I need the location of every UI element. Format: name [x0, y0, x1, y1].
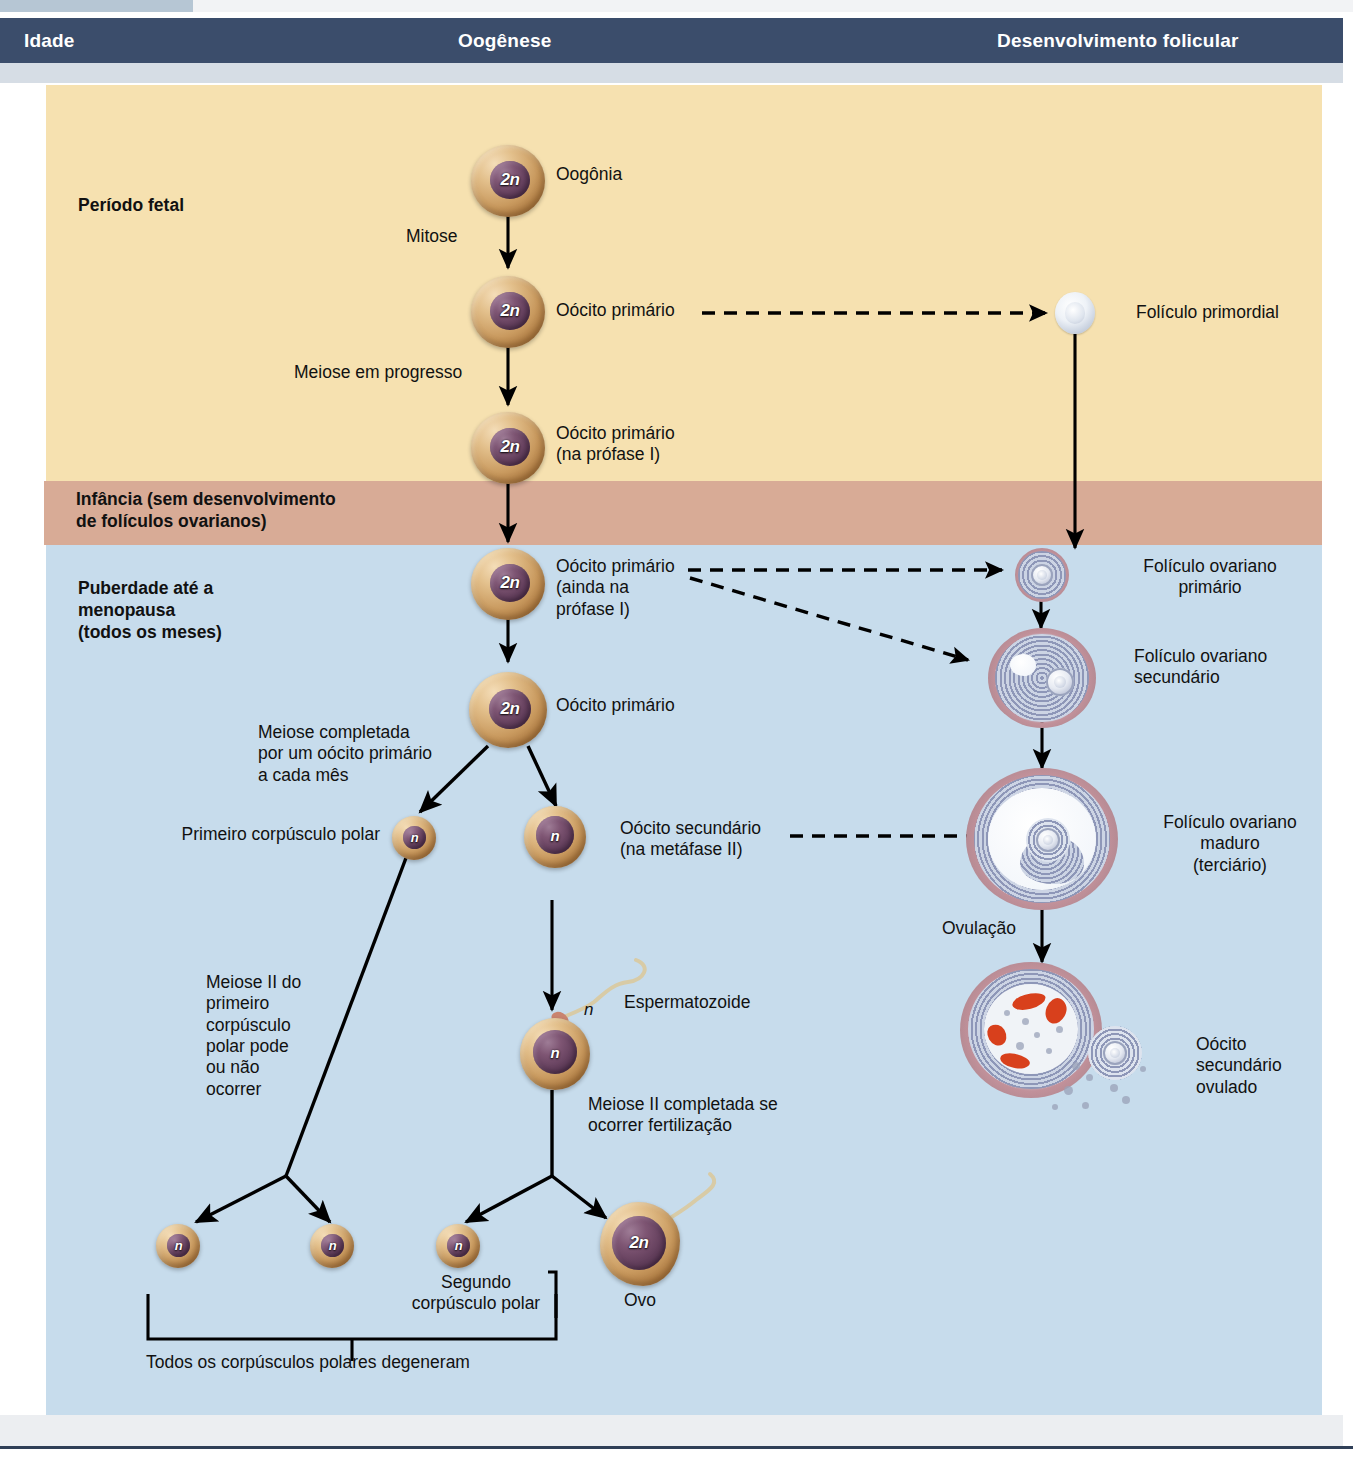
cell-polar-body-a: n	[156, 1224, 200, 1268]
cell-debris	[1110, 1084, 1118, 1092]
label-primary-oocyte-4: Oócito primário	[556, 695, 675, 716]
cell-second-polar-body: n	[436, 1224, 480, 1268]
label-meiose2-fertilizacao: Meiose II completada se ocorrer fertiliz…	[588, 1094, 778, 1137]
follicle-oocyte	[1065, 302, 1086, 324]
ploidy-label: 2n	[500, 437, 519, 457]
ploidy-label: n	[411, 830, 419, 845]
cell-debris	[1082, 1102, 1089, 1109]
follicle-granulosa	[995, 634, 1089, 722]
ploidy-label: 2n	[500, 699, 519, 719]
follicle-oocyte	[1031, 564, 1053, 586]
follicle-ruptured	[960, 962, 1102, 1098]
figure-oogenesis: Idade Oogênese Desenvolvimento folicular…	[0, 0, 1353, 1459]
cell-debris	[1004, 1010, 1010, 1016]
cell-debris	[1046, 1048, 1052, 1054]
cell-nucleus: 2n	[612, 1216, 666, 1270]
label-follicle-primordial: Folículo primordial	[1136, 302, 1279, 323]
cell-debris	[1064, 1086, 1073, 1095]
cell-nucleus: 2n	[490, 564, 530, 602]
ploidy-label: 2n	[629, 1233, 648, 1253]
label-first-polar-body: Primeiro corpúsculo polar	[86, 824, 380, 845]
cell-secondary-oocyte: n	[524, 806, 586, 868]
ruptured-follicle-group	[960, 962, 1190, 1122]
page-bottom-rule	[0, 1446, 1353, 1449]
label-primary-oocyte-3: Oócito primário (ainda na prófase I)	[556, 556, 675, 620]
cell-nucleus: n	[321, 1234, 344, 1257]
ploidy-label: 2n	[500, 170, 519, 190]
cell-nucleus: n	[536, 816, 574, 854]
cell-nucleus: n	[533, 1030, 577, 1074]
cell-nucleus: n	[447, 1234, 470, 1257]
label-meiose-em-progresso: Meiose em progresso	[294, 362, 462, 383]
cell-debris	[1072, 1062, 1080, 1070]
follicle-oocyte	[1036, 828, 1060, 852]
cell-debris	[1140, 1066, 1146, 1072]
cell-debris	[1056, 1026, 1063, 1033]
cell-nucleus: 2n	[489, 689, 531, 729]
cell-primary-oocyte-2: 2n	[471, 412, 545, 484]
header-col-oogenese: Oogênese	[458, 30, 551, 52]
top-strip-left	[0, 0, 193, 12]
cell-debris	[1022, 1018, 1029, 1025]
label-espermatozoide: Espermatozoide	[624, 992, 750, 1013]
label-sperm-ploidy: n	[584, 1000, 593, 1021]
follicle-primordial	[1055, 292, 1095, 334]
label-primary-oocyte-2: Oócito primário (na prófase I)	[556, 423, 675, 466]
label-meiose2-polar-body: Meiose II do primeiro corpúsculo polar p…	[206, 972, 301, 1100]
cell-primary-oocyte-4: 2n	[469, 672, 547, 748]
label-follicle-primary: Folículo ovariano primário	[1102, 556, 1318, 599]
band-label-infancia: Infância (sem desenvolvimento de folícul…	[76, 489, 336, 533]
ploidy-label: n	[551, 827, 560, 844]
cell-nucleus: 2n	[490, 428, 530, 466]
label-corpusculos-degeneram: Todos os corpúsculos polares degeneram	[146, 1352, 470, 1373]
cell-debris	[1016, 1042, 1024, 1050]
follicle-secondary	[988, 628, 1096, 728]
oocyte-core	[1103, 1041, 1127, 1065]
column-header-bar: Idade Oogênese Desenvolvimento folicular	[0, 18, 1343, 63]
cell-nucleus: n	[167, 1234, 190, 1257]
band-label-puberdade: Puberdade até a menopausa (todos os mese…	[78, 578, 222, 644]
label-follicle-mature: Folículo ovariano maduro (terciário)	[1130, 812, 1330, 876]
follicle-primary	[1015, 548, 1069, 602]
cell-nucleus: 2n	[490, 161, 530, 199]
label-ovo: Ovo	[596, 1290, 684, 1311]
cell-debris	[1052, 1104, 1058, 1110]
cell-ovo: 2n	[600, 1202, 680, 1286]
band-periodo-fetal	[46, 85, 1322, 481]
cell-debris	[1122, 1096, 1130, 1104]
ploidy-label: n	[175, 1238, 183, 1253]
band-label-periodo-fetal: Período fetal	[78, 195, 184, 217]
label-ovulacao: Ovulação	[942, 918, 1016, 939]
cell-debris	[1034, 1032, 1040, 1038]
label-meiose-completada: Meiose completada por um oócito primário…	[258, 722, 432, 786]
ploidy-label: n	[455, 1238, 463, 1253]
cell-polar-body-b: n	[310, 1224, 354, 1268]
ploidy-label: n	[551, 1044, 560, 1061]
ploidy-label: n	[329, 1238, 337, 1253]
label-primary-oocyte-1: Oócito primário	[556, 300, 675, 321]
label-secondary-oocyte: Oócito secundário (na metáfase II)	[620, 818, 761, 861]
cell-primary-oocyte-1: 2n	[471, 276, 545, 348]
top-strip-right	[193, 0, 1353, 12]
ploidy-label: 2n	[500, 573, 519, 593]
header-col-desenvolvimento-folicular: Desenvolvimento folicular	[997, 30, 1239, 52]
cell-nucleus: n	[403, 826, 426, 849]
label-oogonia: Oogônia	[556, 164, 622, 185]
label-second-polar-body: Segundo corpúsculo polar	[396, 1272, 556, 1315]
header-col-idade: Idade	[24, 30, 75, 52]
follicle-antrum	[1010, 654, 1036, 676]
ovulated-oocyte	[1088, 1026, 1142, 1080]
header-underband	[0, 63, 1343, 83]
cell-fertilized-oocyte: n	[520, 1018, 590, 1090]
cell-nucleus: 2n	[490, 292, 530, 330]
label-follicle-secondary: Folículo ovariano secundário	[1134, 646, 1267, 689]
cell-oogonia: 2n	[471, 145, 545, 217]
cell-debris	[1086, 1074, 1093, 1081]
page-bottom-pad	[0, 1415, 1343, 1446]
ploidy-label: 2n	[500, 301, 519, 321]
label-ovulated-oocyte: Oócito secundário ovulado	[1196, 1034, 1282, 1098]
cell-primary-oocyte-3: 2n	[471, 548, 545, 620]
follicle-mature	[966, 768, 1118, 910]
cell-first-polar-body: n	[392, 816, 436, 860]
follicle-oocyte	[1046, 668, 1074, 696]
